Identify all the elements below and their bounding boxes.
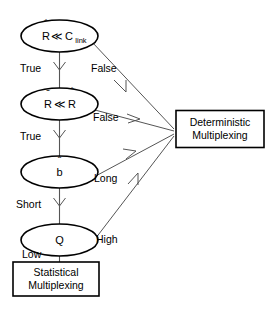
edge-label-rbar-false: False	[93, 111, 119, 123]
terminal-deterministic-line1: Deterministic	[190, 116, 251, 128]
terminal-statistical-line2: Multiplexing	[28, 279, 84, 291]
decision-b[interactable]: b ̂	[21, 156, 98, 188]
decision-b-label: b	[56, 166, 62, 178]
decision-rhat-clink-operand-left: R	[42, 30, 50, 42]
edge-label-q-high: High	[96, 233, 118, 245]
decision-q-label: Q	[55, 234, 64, 246]
terminal-statistical-line1: Statistical	[34, 266, 79, 278]
edge-label-rhat-true: True	[20, 62, 41, 74]
decision-rbar-rhat[interactable]: R ̄ ≪ R ̂	[21, 87, 98, 120]
edge-rbar-true	[54, 120, 66, 156]
edge-label-rhat-false: False	[91, 62, 117, 74]
edge-b-short	[54, 188, 66, 224]
edge-rhat-true	[54, 52, 66, 88]
decision-rhat-clink-operand-right: C	[65, 30, 73, 42]
decision-rhat-clink[interactable]: R ̂ ≪ C link	[21, 19, 98, 52]
edge-label-b-short: Short	[16, 198, 41, 210]
terminal-deterministic[interactable]: Deterministic Multiplexing	[176, 111, 264, 148]
edge-label-b-long: Long	[94, 172, 118, 184]
edge-q-high	[92, 136, 174, 243]
edge-label-q-low: Low	[22, 248, 42, 260]
decision-rbar-rhat-operand-right: R	[68, 98, 76, 110]
decision-rbar-rhat-operator: ≪	[54, 98, 66, 110]
decision-rbar-rhat-operand-left: R	[44, 98, 52, 110]
terminal-statistical[interactable]: Statistical Multiplexing	[13, 262, 99, 296]
decision-rhat-clink-operand-right-subscript: link	[75, 36, 87, 45]
decision-rhat-clink-operator: ≪	[51, 30, 63, 42]
edge-label-rbar-true: True	[20, 130, 41, 142]
terminal-deterministic-line2: Multiplexing	[192, 129, 248, 141]
flowchart-diagram: R ̂ ≪ C link R ̄ ≪ R ̂ b ̂ Q D	[0, 0, 274, 313]
flowchart-canvas: R ̂ ≪ C link R ̄ ≪ R ̂ b ̂ Q D	[0, 0, 274, 313]
